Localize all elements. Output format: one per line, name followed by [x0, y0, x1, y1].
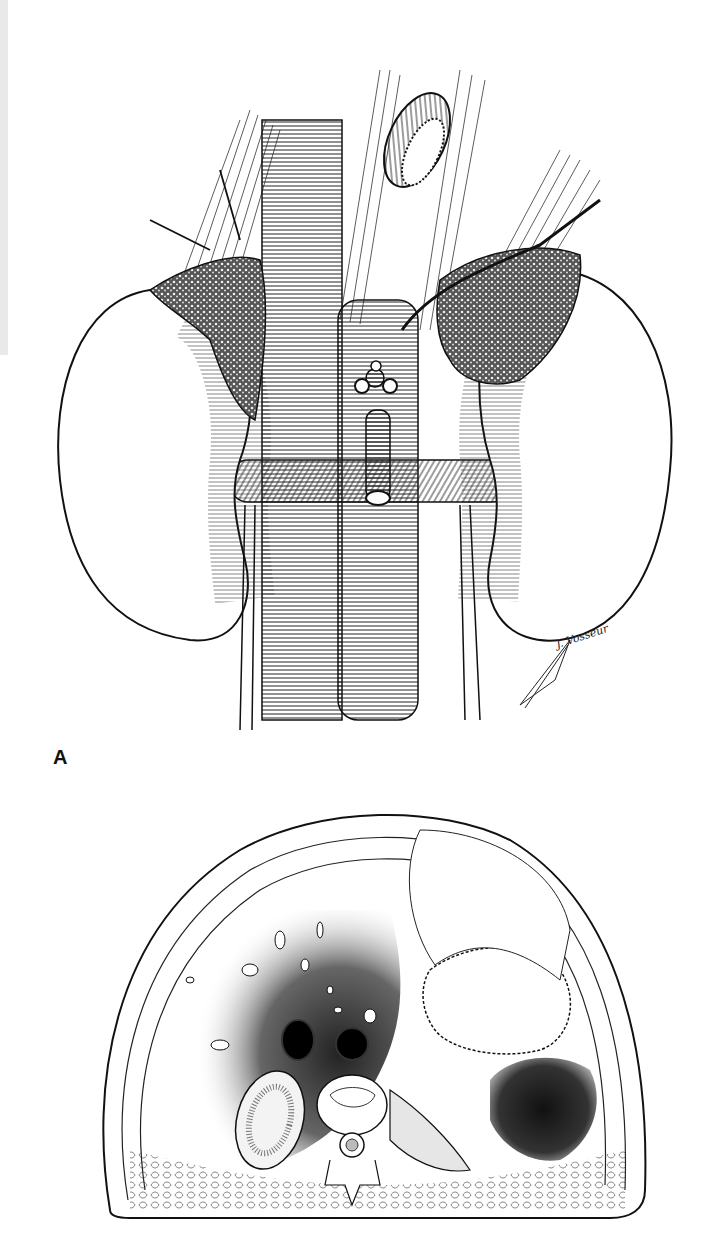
cross-section-drawing [90, 790, 650, 1220]
quill-pen-icon [520, 640, 570, 708]
ivc-section [282, 1020, 314, 1060]
superior-mesenteric-artery-stump [366, 410, 390, 500]
figure-b-cross-section-illustration [90, 790, 650, 1220]
page-edge-strip [0, 0, 8, 355]
panel-label-a: A [53, 746, 67, 769]
aorta-section [336, 1028, 368, 1060]
inferior-vena-cava [262, 120, 342, 720]
